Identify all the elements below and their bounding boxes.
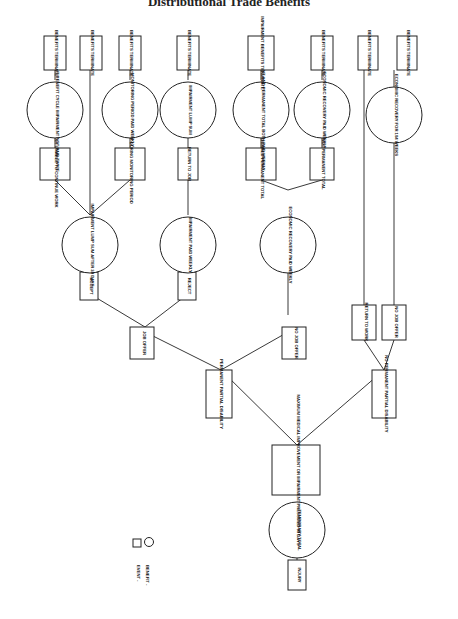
node-benefits-terminate-4: BENEFITS TERMINATE bbox=[177, 30, 199, 76]
node-label: BENEFITS TERMINATE bbox=[367, 30, 372, 76]
node-label: MAXIMUM MEDICAL IMPROVEMENT OR IMPAIRMEN… bbox=[296, 395, 301, 546]
node-return-to-work: RETURN TO WORK bbox=[352, 303, 376, 342]
node-reject: REJECT bbox=[178, 272, 196, 300]
node-impairment-benefits-terminate: IMPAIRMENT BENEFITS TERMINATE bbox=[248, 16, 274, 90]
node-label: NO PERMANENT PARTIAL DISABILITY bbox=[384, 355, 389, 433]
node-injury: INJURY bbox=[288, 560, 306, 590]
node-label: INJURY bbox=[297, 567, 302, 582]
node-label: BENEFITS TERMINATE bbox=[90, 30, 95, 76]
node-determined-ptd: DETERMINED PERMANENT TOTAL bbox=[246, 129, 276, 200]
node-benefits-terminate-5: BENEFITS TERMINATE bbox=[311, 30, 333, 76]
node-label: ECONOMIC RECOVERY PAID WEEKLY bbox=[288, 206, 293, 283]
node-econ-recovery-weekly-top: ECONOMIC RECOVERY PAID WEEKLY bbox=[294, 71, 350, 148]
node-label: ECONOMIC RECOVERY FOR 104 WEEKS bbox=[394, 74, 399, 156]
node-monitoring-weekly: MONITORING PERIOD PAID WEEKLY bbox=[102, 73, 158, 147]
node-ppd: PERMANENT PARTIAL DISABILITY bbox=[206, 359, 232, 429]
node-benefits-terminate-1: BENEFITS TERMINATE bbox=[44, 30, 66, 76]
node-no-job-offer-b: NO JOB OFFER bbox=[382, 305, 406, 340]
node-label: BENEFITS TERMINATE bbox=[187, 30, 192, 76]
legend-circle-icon bbox=[145, 538, 154, 547]
node-no-job-offer-a: NO JOB OFFER bbox=[282, 327, 306, 359]
node-label: REJECT bbox=[187, 278, 192, 295]
legend-event-label: EVENT - bbox=[136, 565, 141, 582]
node-label: NO JOB OFFER bbox=[394, 306, 399, 337]
node-impairment-lump-sum: IMPAIRMENT LUMP SUM bbox=[160, 82, 216, 138]
node-label: ECONOMIC RECOVERY PAID WEEKLY bbox=[322, 71, 327, 148]
node-label: IMPAIRMENT PAID WEEKLY bbox=[188, 217, 193, 273]
node-no-ppd: NO PERMANENT PARTIAL DISABILITY bbox=[372, 355, 396, 433]
node-label: PERMANENT PARTIAL DISABILITY bbox=[219, 359, 224, 429]
legend: EVENT - BENEFIT - bbox=[133, 538, 154, 587]
node-benefits-terminate-2: BENEFITS TERMINATE bbox=[80, 30, 102, 76]
node-benefits-terminate-6: BENEFITS TERMINATE bbox=[358, 30, 378, 76]
legend-square-icon bbox=[133, 539, 141, 547]
node-job-offer: JOB OFFER bbox=[130, 327, 154, 359]
tree-edges bbox=[55, 70, 394, 560]
legend-benefit-label: BENEFIT - bbox=[145, 565, 150, 586]
node-label: RETURN TO WORK bbox=[364, 303, 369, 342]
node-label: IMPAIRMENT BENEFITS TERMINATE bbox=[260, 16, 265, 90]
node-label: BENEFITS TERMINATE bbox=[321, 30, 326, 76]
node-benefits-terminate-7: BENEFITS TERMINATE bbox=[397, 30, 417, 76]
node-benefits-terminate-3: BENEFITS TERMINATE bbox=[119, 30, 141, 76]
node-label: RETURN TO JOB bbox=[187, 147, 192, 181]
node-label: BENEFITS TERMINATE bbox=[406, 30, 411, 76]
node-return-to-job: RETURN TO JOB bbox=[178, 147, 198, 181]
node-label: IMPAIRMENT LUMP SUM bbox=[188, 85, 193, 135]
node-label: NO JOB OFFER bbox=[294, 327, 299, 358]
decision-tree-diagram: INJURY TEMPORARY TOTAL MAXIMUM MEDICAL I… bbox=[0, 0, 458, 619]
node-label: BENEFITS TERMINATE bbox=[54, 30, 59, 76]
node-label: JOB OFFER bbox=[142, 331, 147, 355]
node-label: MONITORING PERIOD PAID WEEKLY bbox=[130, 73, 135, 147]
node-econ-recovery-paid-weekly: ECONOMIC RECOVERY PAID WEEKLY bbox=[260, 206, 316, 283]
node-label: IMPAIRMENT LUMP SUM AFTER 30 DAYS bbox=[90, 204, 95, 287]
node-label: BENEFITS TERMINATE bbox=[129, 30, 134, 76]
node-impairment-paid-weekly: IMPAIRMENT PAID WEEKLY bbox=[160, 217, 216, 273]
